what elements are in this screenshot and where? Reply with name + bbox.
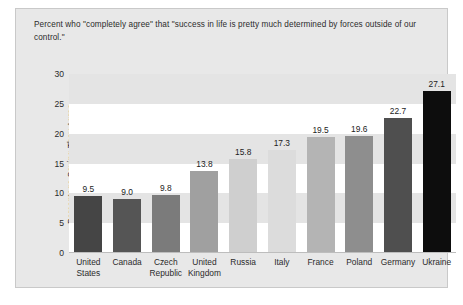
- bar-value-label: 19.5: [301, 125, 341, 135]
- x-axis-category-label: France: [299, 257, 343, 268]
- x-axis-category-label: Russia: [221, 257, 265, 268]
- bar: [268, 150, 296, 253]
- y-axis-tick-label: 20: [20, 129, 64, 139]
- bar: [229, 159, 257, 253]
- bar-value-label: 15.8: [223, 147, 263, 157]
- x-axis-label-line: Canada: [105, 257, 149, 268]
- bar-value-label: 17.3: [262, 138, 302, 148]
- x-axis-label-line: United: [66, 257, 110, 268]
- bar: [423, 91, 451, 253]
- bar-value-label: 9.0: [107, 187, 147, 197]
- bar: [345, 136, 373, 253]
- x-axis-label-line: Russia: [221, 257, 265, 268]
- x-axis-label-line: States: [66, 268, 110, 279]
- x-axis-label-line: Ukraine: [415, 257, 459, 268]
- y-axis-tick-label: 25: [20, 99, 64, 109]
- x-axis-category-label: Germany: [376, 257, 420, 268]
- chart-panel: Percent who "completely agree" that "suc…: [15, 8, 448, 288]
- bar-value-label: 27.1: [417, 79, 457, 89]
- bar: [190, 171, 218, 253]
- x-axis-label-line: Poland: [337, 257, 381, 268]
- y-axis-tick-label: 30: [20, 69, 64, 79]
- y-axis-tick-label: 15: [20, 159, 64, 169]
- bar: [152, 195, 180, 253]
- bar: [384, 118, 412, 253]
- x-axis-category-label: CzechRepublic: [144, 257, 188, 278]
- y-axis-tick-label: 0: [20, 248, 64, 258]
- x-axis-label-line: Czech: [144, 257, 188, 268]
- x-axis-label-line: Kingdom: [182, 268, 226, 279]
- x-axis-label-line: Germany: [376, 257, 420, 268]
- x-axis-category-label: Italy: [260, 257, 304, 268]
- bar-value-label: 19.6: [339, 124, 379, 134]
- x-axis-baseline: [69, 252, 456, 253]
- x-axis-labels: UnitedStatesCanadaCzechRepublicUnitedKin…: [69, 257, 456, 291]
- bar-value-label: 13.8: [184, 159, 224, 169]
- bar: [307, 137, 335, 253]
- y-axis-tick-label: 10: [20, 188, 64, 198]
- background-band: [69, 74, 456, 104]
- x-axis-label-line: Republic: [144, 268, 188, 279]
- bar-value-label: 9.8: [146, 183, 186, 193]
- bar-value-label: 22.7: [378, 106, 418, 116]
- x-axis-category-label: UnitedKingdom: [182, 257, 226, 278]
- y-axis-ticks: 051015202530: [16, 74, 64, 253]
- x-axis-category-label: Canada: [105, 257, 149, 268]
- bar-value-label: 9.5: [68, 184, 108, 194]
- chart-title: Percent who "completely agree" that "suc…: [34, 19, 432, 44]
- x-axis-category-label: Poland: [337, 257, 381, 268]
- x-axis-category-label: Ukraine: [415, 257, 459, 268]
- bar: [113, 199, 141, 253]
- x-axis-label-line: Italy: [260, 257, 304, 268]
- y-axis-tick-label: 5: [20, 218, 64, 228]
- x-axis-label-line: France: [299, 257, 343, 268]
- plot-area: 9.59.09.813.815.817.319.519.622.727.1: [69, 74, 456, 253]
- bar: [74, 196, 102, 253]
- x-axis-category-label: UnitedStates: [66, 257, 110, 278]
- x-axis-label-line: United: [182, 257, 226, 268]
